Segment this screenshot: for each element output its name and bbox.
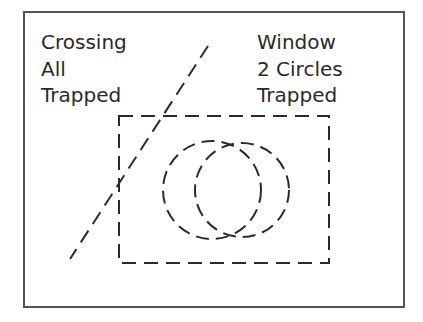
window-label: Window 2 Circles Trapped bbox=[256, 30, 343, 107]
window-label-line-1: Window bbox=[257, 30, 336, 54]
window-label-line-3: Trapped bbox=[256, 83, 337, 107]
crossing-label: Crossing All Trapped bbox=[40, 30, 127, 107]
window-label-line-2: 2 Circles bbox=[257, 57, 343, 81]
circle-left bbox=[163, 141, 261, 239]
selection-diagram: Crossing All Trapped Window 2 Circles Tr… bbox=[0, 0, 423, 322]
crossing-label-line-1: Crossing bbox=[41, 30, 127, 54]
crossing-label-line-2: All bbox=[41, 57, 66, 81]
crossing-selection-line bbox=[70, 46, 208, 259]
circle-right bbox=[195, 143, 289, 237]
window-selection-rect bbox=[119, 116, 329, 263]
crossing-label-line-3: Trapped bbox=[40, 83, 121, 107]
